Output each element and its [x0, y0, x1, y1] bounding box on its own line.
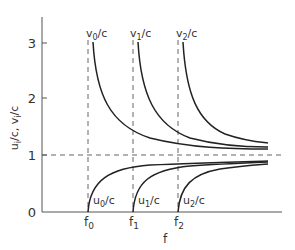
curve-v2	[183, 42, 268, 143]
y-tick-1: 1	[28, 148, 36, 163]
svg-text:ui/c, vi/c: ui/c, vi/c	[8, 106, 23, 150]
label-v1: v1/c	[130, 27, 151, 42]
x-axis-label: f	[163, 232, 168, 246]
x-tick-f2: f2	[174, 215, 184, 231]
y-tick-0: 0	[28, 205, 36, 220]
curve-v1	[138, 42, 268, 147]
label-u0: u0/c	[93, 194, 115, 209]
y-tick-2: 2	[28, 91, 36, 106]
label-u1: u1/c	[138, 194, 160, 209]
reference-lines	[42, 40, 282, 212]
y-ticks	[42, 43, 47, 155]
y-axis-label: ui/c, vi/c	[8, 106, 23, 150]
x-tick-f1: f1	[129, 215, 139, 231]
x-tick-f0: f0	[84, 215, 94, 231]
label-u2: u2/c	[183, 194, 205, 209]
dispersion-chart: 3 2 1 0 ui/c, vi/c v0/c v1/c v2/c u0/c u…	[0, 0, 295, 250]
label-v0: v0/c	[86, 27, 107, 42]
y-tick-3: 3	[28, 36, 36, 51]
label-v2: v2/c	[176, 27, 197, 42]
